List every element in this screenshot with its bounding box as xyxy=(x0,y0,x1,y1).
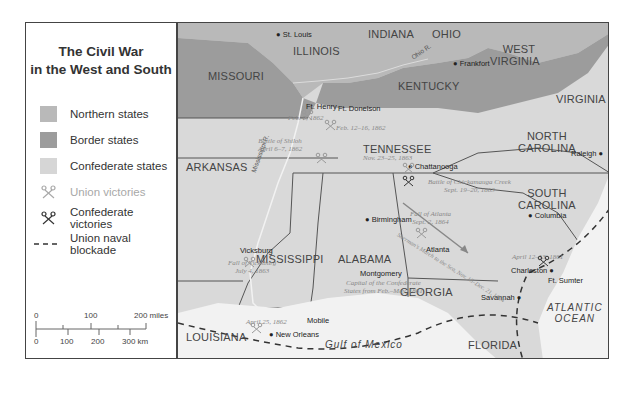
border-states-swatch xyxy=(40,132,57,148)
legend-title: The Civil War in the West and South xyxy=(26,43,176,79)
battle-label-line: Fall of Vicksburg xyxy=(228,259,276,267)
civil-war-map: MISSOURI ILLINOIS INDIANA OHIO WEST VIRG… xyxy=(177,22,609,359)
city-st-louis: ● St. Louis xyxy=(276,30,312,39)
battle-label-line: Fall of Atlanta xyxy=(410,210,451,218)
city-label: Frankfort xyxy=(460,59,490,68)
city-montgomery: Montgomery xyxy=(360,269,402,278)
city-label: Chattanooga xyxy=(415,162,458,171)
scale-mile-200: 200 miles xyxy=(134,311,168,320)
scale-mile-0: 0 xyxy=(34,311,38,320)
legend-title-line-1: The Civil War xyxy=(26,43,176,61)
battle-label-line: Sept. 19–20, 1863 xyxy=(428,186,511,194)
water-label-gulf: Gulf of Mexico xyxy=(325,339,403,350)
city-vicksburg: Vicksburg xyxy=(240,246,273,255)
state-label-arkansas: ARKANSAS xyxy=(186,161,248,173)
state-label-line: VIRGINIA xyxy=(490,55,540,67)
battle-ft-sumter: April 12–13, 1861 xyxy=(512,253,563,261)
map-legend: The Civil War in the West and South Nort… xyxy=(25,22,177,359)
scale-km-300: 300 km xyxy=(122,337,148,346)
state-label-west-virginia: WEST VIRGINIA xyxy=(498,43,540,67)
water-label-atlantic: ATLANTIC OCEAN xyxy=(547,302,603,324)
battle-ft-donelson: Feb. 12–16, 1862 xyxy=(336,124,385,132)
legend-item-union-victories: Union victories xyxy=(40,183,145,201)
state-label-kentucky: KENTUCKY xyxy=(398,80,460,92)
state-label-indiana: INDIANA xyxy=(368,28,414,40)
legend-item-confederate: Confederate states xyxy=(40,157,167,175)
city-mobile: Mobile xyxy=(307,316,329,325)
battle-new-orleans: April 25, 1862 xyxy=(246,318,287,326)
scale-km-100: 100 xyxy=(60,337,73,346)
scale-bar: 0 100 200 miles 0 100 200 300 km xyxy=(34,293,174,353)
battle-ft-henry: Feb. 6, 1862 xyxy=(288,114,323,122)
city-label: St. Louis xyxy=(283,30,312,39)
city-ft-sumter: Ft. Sumter xyxy=(548,276,583,285)
state-label-line: CAROLINA xyxy=(518,142,576,154)
crossed-swords-icon xyxy=(40,185,57,199)
state-label-virginia: VIRGINIA xyxy=(556,93,606,105)
crossed-swords-icon xyxy=(40,211,57,225)
battle-label-line: Capital of the Confederate xyxy=(344,279,423,287)
city-birmingham: ● Birmingham xyxy=(365,215,412,224)
battle-chickamauga: Battle of Chickamauga Creek Sept. 19–20,… xyxy=(428,178,511,194)
legend-label: Northern states xyxy=(70,108,149,120)
city-ft-donelson: Ft. Donelson xyxy=(338,104,381,113)
legend-label: Border states xyxy=(70,134,138,146)
legend-item-northern: Northern states xyxy=(40,105,149,123)
city-frankfort: ● Frankfort xyxy=(453,59,490,68)
state-label-alabama: ALABAMA xyxy=(338,253,391,265)
state-label-line: WEST xyxy=(498,43,540,55)
legend-label: Union naval blockade xyxy=(70,232,176,256)
legend-label: Confederate states xyxy=(70,160,167,172)
state-label-south-carolina: SOUTH CAROLINA xyxy=(518,187,576,211)
city-columbia: ● Columbia xyxy=(528,211,566,220)
legend-label: Confederate victories xyxy=(70,206,176,230)
scale-mile-100: 100 xyxy=(84,311,97,320)
state-label-ohio: OHIO xyxy=(432,28,461,40)
city-ft-henry: Ft. Henry xyxy=(306,102,337,111)
water-label-line: ATLANTIC xyxy=(547,302,603,313)
state-label-line: NORTH xyxy=(518,130,576,142)
state-label-line: SOUTH xyxy=(518,187,576,199)
city-chattanooga: ● Chattanooga xyxy=(408,162,458,171)
battle-label-line: Battle of Shiloh xyxy=(258,137,302,145)
battle-label-line: Sept. 2, 1864 xyxy=(410,218,451,226)
city-label: New Orleans xyxy=(276,330,319,339)
legend-item-border: Border states xyxy=(40,131,138,149)
legend-item-confederate-victories: Confederate victories xyxy=(40,209,176,227)
state-label-north-carolina: NORTH CAROLINA xyxy=(518,130,576,154)
battle-chattanooga: Nov. 23–25, 1863 xyxy=(363,154,412,162)
legend-item-naval-blockade: Union naval blockade xyxy=(34,235,176,253)
city-label: Raleigh xyxy=(571,149,596,158)
battle-label-line: Battle of Chickamauga Creek xyxy=(428,178,511,186)
city-label: Columbia xyxy=(535,211,567,220)
battle-label-line: States from Feb.–May, 1861 xyxy=(344,287,423,295)
state-label-illinois: ILLINOIS xyxy=(293,45,340,57)
city-new-orleans: ● New Orleans xyxy=(269,330,319,339)
scale-km-0: 0 xyxy=(34,337,38,346)
dashed-line-icon xyxy=(34,241,58,247)
legend-label: Union victories xyxy=(70,186,145,198)
city-charleston: Charleston ● xyxy=(511,266,554,275)
legend-title-line-2: in the West and South xyxy=(26,61,176,79)
city-raleigh: Raleigh ● xyxy=(571,149,603,158)
battle-vicksburg: Fall of Vicksburg July 4, 1863 xyxy=(228,259,276,275)
state-label-florida: FLORIDA xyxy=(468,339,517,351)
city-label: Birmingham xyxy=(372,215,412,224)
battle-label-line: April 6–7, 1862 xyxy=(258,145,302,153)
city-label: Charleston xyxy=(511,266,547,275)
state-label-louisiana: LOUISIANA xyxy=(186,331,247,343)
battle-shiloh: Battle of Shiloh April 6–7, 1862 xyxy=(258,137,302,153)
water-label-line: OCEAN xyxy=(547,313,603,324)
confederate-states-swatch xyxy=(40,158,57,174)
state-label-missouri: MISSOURI xyxy=(208,70,264,82)
state-label-line: CAROLINA xyxy=(518,199,576,211)
battle-label-line: July 4, 1863 xyxy=(228,267,276,275)
capital-note: Capital of the Confederate States from F… xyxy=(344,279,423,295)
scale-km-200: 200 xyxy=(91,337,104,346)
northern-states-swatch xyxy=(40,106,57,122)
battle-atlanta: Fall of Atlanta Sept. 2, 1864 xyxy=(410,210,451,226)
